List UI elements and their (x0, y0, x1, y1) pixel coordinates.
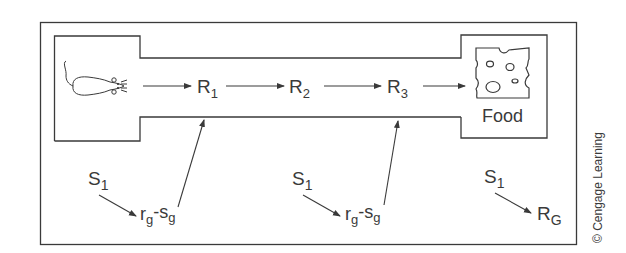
label-rg-sg-a: rg-sg (140, 202, 175, 227)
label-r3: R3 (387, 76, 408, 101)
outer-frame (41, 23, 577, 245)
cheese-icon (476, 48, 529, 98)
label-r2: R2 (289, 76, 310, 101)
goal-label: Food (482, 106, 523, 126)
label-RG: RG (537, 203, 562, 228)
stimulus-s1-b: S1 (292, 168, 313, 193)
maze-outline-bottom (55, 117, 462, 141)
stimulus-s1-c: S1 (484, 166, 505, 191)
label-r1: R1 (197, 76, 218, 101)
arrow-s1-to-rgsg-a (99, 195, 136, 216)
arrow-rgsg1-to-r1 (178, 120, 204, 207)
arrow-s1-to-rg (495, 193, 531, 213)
credit-text: © Cengage Learning (591, 132, 605, 243)
stimulus-s1-a: S1 (88, 168, 109, 193)
arrow-s1-to-rgsg-b (303, 195, 340, 216)
label-rg-sg-b: rg-sg (345, 202, 380, 227)
mouse-icon (64, 61, 127, 95)
arrow-rgsg2-to-r3 (384, 121, 398, 205)
maze-diagram: R1 R2 R3 Food S1 rg-sg S1 rg-sg S1 RG © … (0, 0, 626, 253)
